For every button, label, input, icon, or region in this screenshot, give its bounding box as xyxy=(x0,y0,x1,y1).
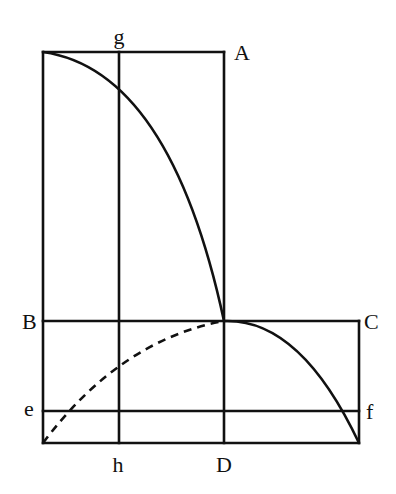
label-A: A xyxy=(234,40,250,65)
label-B: B xyxy=(22,309,37,334)
label-f: f xyxy=(366,399,374,424)
solid-curve-lower xyxy=(224,321,359,443)
label-D: D xyxy=(216,452,232,477)
label-g: g xyxy=(114,24,125,49)
diagram-canvas: g A B C e f h D xyxy=(0,0,396,494)
label-C: C xyxy=(364,309,379,334)
label-h: h xyxy=(113,452,124,477)
solid-curve-upper xyxy=(43,52,224,321)
dashed-curve xyxy=(43,321,224,443)
label-e: e xyxy=(24,396,34,421)
